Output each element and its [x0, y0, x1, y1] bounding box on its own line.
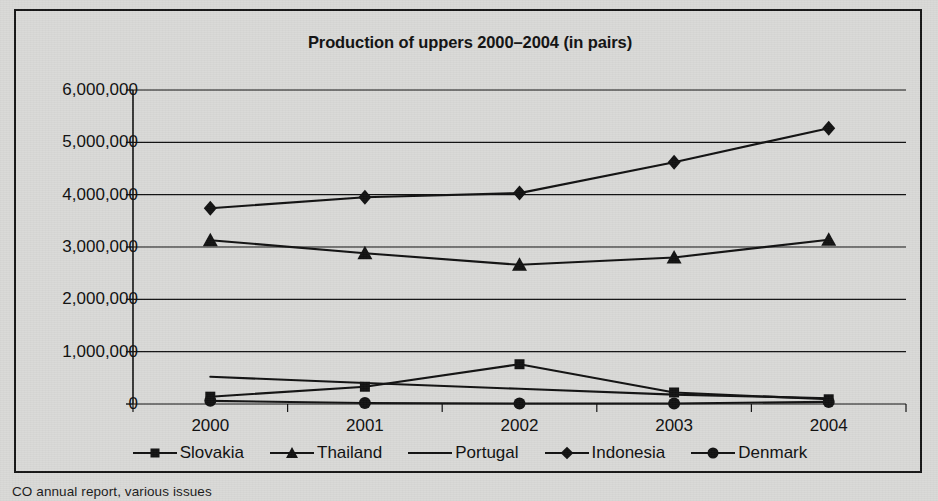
legend-item-indonesia[interactable]: Indonesia	[545, 443, 666, 463]
legend-label: Denmark	[738, 443, 807, 463]
legend-line	[408, 452, 452, 454]
x-axis-label-2001: 2001	[346, 416, 384, 436]
legend-diamond-icon	[560, 447, 573, 460]
legend-item-portugal[interactable]: Portugal	[408, 443, 518, 463]
legend-triangle-icon	[286, 447, 298, 458]
legend-label: Slovakia	[180, 443, 244, 463]
legend-marker-triangle-icon	[270, 446, 314, 460]
legend-marker-circle-icon	[691, 446, 735, 460]
legend-square-icon	[150, 449, 159, 458]
legend-marker-none-icon	[408, 446, 452, 460]
legend-item-denmark[interactable]: Denmark	[691, 443, 807, 463]
x-axis-label-2002: 2002	[501, 416, 539, 436]
figure-caption: CO annual report, various issues	[12, 484, 212, 499]
legend-marker-square-icon	[133, 446, 177, 460]
x-axis-tick-labels: 20002001200220032004	[16, 11, 924, 475]
legend-circle-icon	[708, 448, 719, 459]
x-axis-label-2004: 2004	[810, 416, 848, 436]
chart-frame: Production of uppers 2000–2004 (in pairs…	[14, 9, 922, 473]
legend-label: Portugal	[455, 443, 518, 463]
legend-item-slovakia[interactable]: Slovakia	[133, 443, 244, 463]
chart-legend: SlovakiaThailandPortugalIndonesiaDenmark	[16, 443, 924, 463]
x-axis-label-2000: 2000	[191, 416, 229, 436]
legend-label: Indonesia	[592, 443, 666, 463]
x-axis-label-2003: 2003	[655, 416, 693, 436]
figure-page: Production of uppers 2000–2004 (in pairs…	[0, 0, 938, 501]
legend-item-thailand[interactable]: Thailand	[270, 443, 382, 463]
legend-marker-diamond-icon	[545, 446, 589, 460]
legend-label: Thailand	[317, 443, 382, 463]
